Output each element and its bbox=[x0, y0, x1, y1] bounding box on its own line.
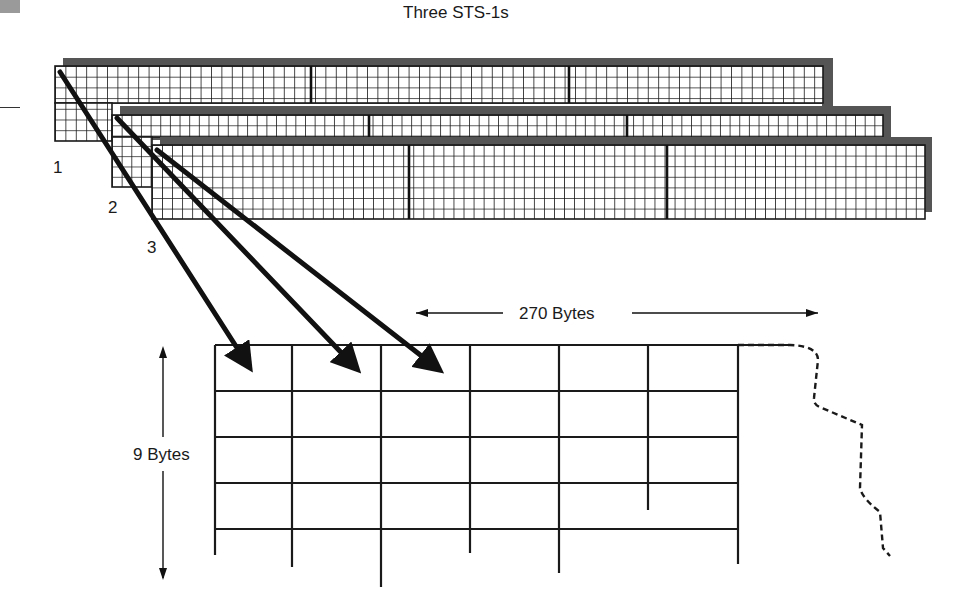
sts1-frame-3 bbox=[152, 137, 932, 219]
torn-edge-dashed bbox=[738, 345, 890, 556]
width-label: 270 Bytes bbox=[519, 304, 595, 324]
diagram-artwork bbox=[0, 0, 975, 616]
frame-label-2: 2 bbox=[108, 198, 117, 218]
height-label: 9 Bytes bbox=[133, 445, 190, 465]
output-frame-grid bbox=[215, 345, 790, 587]
width-dimension-arrow bbox=[416, 309, 818, 317]
frame-label-3: 3 bbox=[147, 238, 156, 258]
sts1-interleave-diagram: Three STS-1s bbox=[0, 0, 975, 616]
frame-label-1: 1 bbox=[53, 158, 62, 178]
